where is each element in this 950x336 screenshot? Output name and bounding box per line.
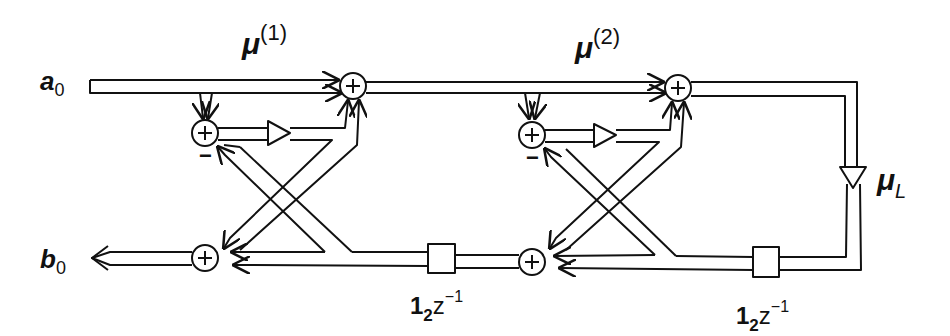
terminal-gain-label: μL (877, 163, 906, 203)
subscript: L (895, 180, 906, 202)
exponent: −1 (771, 298, 789, 315)
mu-symbol: μ (242, 27, 260, 60)
subscript: 0 (54, 80, 64, 100)
output-label-b0: b0 (40, 244, 66, 279)
stage-2: − (519, 75, 691, 256)
exponent: −1 (445, 288, 463, 305)
symbol: a (40, 66, 54, 96)
subscript: 2 (749, 316, 758, 335)
delay-label-2: 12z−1 (736, 298, 789, 336)
mu-symbol: μ (877, 163, 895, 196)
coef: 1 (736, 302, 749, 329)
gain-triangle-1 (268, 121, 290, 145)
superscript: (1) (260, 20, 287, 45)
delay-box-1 (428, 244, 455, 273)
bottom-rail-stage1 (92, 244, 519, 273)
stage1-coefficient-label: μ(1) (242, 20, 287, 61)
delay-label-1: 12z−1 (410, 288, 463, 326)
subscript: 0 (56, 258, 66, 278)
top-rail-stage2 (366, 82, 665, 118)
stage-1: − (192, 73, 366, 252)
return-path (519, 82, 866, 277)
stage2-coefficient-label: μ(2) (575, 24, 620, 65)
input-rail-stage1 (90, 80, 341, 118)
minus-sign-2: − (526, 145, 539, 170)
gain-triangle-L (840, 167, 866, 188)
symbol: b (40, 244, 56, 274)
z-var: z (759, 302, 771, 329)
gain-triangle-2 (594, 124, 616, 147)
minus-sign-1: − (199, 143, 212, 168)
z-var: z (433, 292, 445, 319)
superscript: (2) (593, 24, 620, 49)
lattice-filter-diagram: − − (0, 0, 950, 336)
input-label-a0: a0 (40, 66, 64, 101)
subscript: 2 (423, 306, 432, 325)
mu-symbol: μ (575, 31, 593, 64)
coef: 1 (410, 292, 423, 319)
delay-box-2 (753, 247, 779, 277)
